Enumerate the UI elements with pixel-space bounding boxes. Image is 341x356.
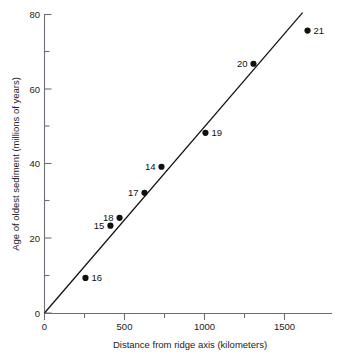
y-axis-tick-labels: 80 60 40 20 0 <box>29 9 40 319</box>
y-axis-title: Age of oldest sediment (millions of year… <box>10 77 21 251</box>
data-point-marker <box>107 223 113 229</box>
trend-line <box>45 13 303 313</box>
data-point-label: 19 <box>211 127 222 138</box>
data-point-marker <box>158 164 164 170</box>
data-point-label: 17 <box>128 187 139 198</box>
y-tick-label-40: 40 <box>29 158 40 169</box>
data-point-marker <box>141 190 147 196</box>
chart-canvas: 80 60 40 20 0 0 500 1000 1500 <box>0 0 341 356</box>
y-tick-label-60: 60 <box>29 84 40 95</box>
data-point-marker <box>250 61 256 67</box>
y-axis-major-ticks <box>45 15 52 314</box>
data-point-label: 14 <box>145 161 156 172</box>
x-axis-minor-ticks <box>85 314 245 319</box>
y-tick-label-0: 0 <box>35 308 40 319</box>
data-point-marker <box>202 130 208 136</box>
data-point-label: 16 <box>91 272 102 283</box>
data-points-group: 1615181714192021 <box>82 25 324 283</box>
data-point-label: 21 <box>314 25 325 36</box>
scatter-chart-figure: 80 60 40 20 0 0 500 1000 1500 <box>0 0 341 356</box>
x-tick-label-0: 0 <box>42 321 47 332</box>
x-tick-label-1000: 1000 <box>194 321 215 332</box>
data-point-marker <box>116 215 122 221</box>
axes-group <box>44 14 332 314</box>
x-tick-label-1500: 1500 <box>274 321 295 332</box>
x-axis-title: Distance from ridge axis (kilometers) <box>113 339 267 350</box>
y-tick-label-80: 80 <box>29 9 40 20</box>
data-point-marker <box>82 275 88 281</box>
y-tick-label-20: 20 <box>29 233 40 244</box>
x-axis-tick-labels: 0 500 1000 1500 <box>42 321 295 332</box>
data-point-marker <box>304 27 310 33</box>
data-point-label: 18 <box>103 212 114 223</box>
x-tick-label-500: 500 <box>117 321 133 332</box>
data-point-label: 20 <box>237 58 248 69</box>
